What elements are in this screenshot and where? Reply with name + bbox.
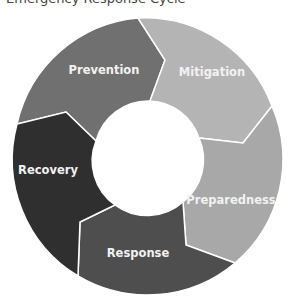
label-recovery: Recovery (18, 163, 78, 177)
cycle-diagram: Prevention Mitigation Preparedness Respo… (0, 0, 292, 301)
center-hole (95, 104, 201, 210)
label-preparedness: Preparedness (186, 193, 275, 207)
label-prevention: Prevention (69, 63, 140, 77)
label-mitigation: Mitigation (179, 65, 245, 79)
label-response: Response (107, 246, 170, 260)
